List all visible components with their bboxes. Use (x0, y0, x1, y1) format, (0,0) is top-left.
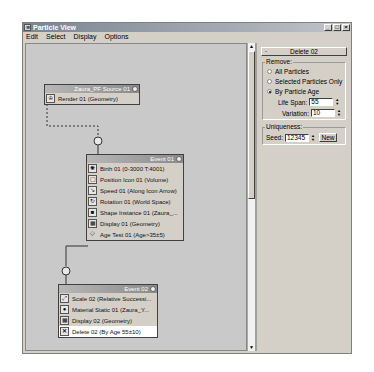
material-icon: ● (60, 305, 69, 314)
event-01-header[interactable]: Event 01 (87, 155, 183, 163)
life-span-label: Life Span: (278, 99, 307, 106)
birth-icon: ✺ (88, 164, 97, 173)
rollout-header-delete-02[interactable]: - Delete 02 (261, 47, 347, 56)
menu-edit[interactable]: Edit (26, 32, 38, 42)
life-span-spinner-icon[interactable]: ▲▼ (335, 98, 339, 106)
operator-scale[interactable]: ⤢ Scale 02 (Relative Successi... (59, 293, 157, 304)
scroll-down-icon[interactable]: ▼ (249, 345, 254, 350)
particle-graph-canvas[interactable]: Zaura_PF Source 01 ♔ Render 01 (Geometry… (25, 43, 247, 351)
scrollbar-thumb[interactable] (248, 51, 255, 199)
uniqueness-group: Uniqueness: Seed: 12345 ▲▼ New (262, 127, 346, 145)
age-test-icon: ◇ (88, 230, 97, 239)
source-node-header[interactable]: Zaura_PF Source 01 (45, 85, 139, 93)
maximize-button[interactable]: □ (333, 24, 341, 31)
radio-dot-selected[interactable] (267, 89, 272, 94)
title-bar[interactable]: ≋ Particle View _ □ × (23, 23, 351, 32)
node-collapse-icon[interactable] (150, 286, 156, 292)
operator-age-test[interactable]: ◇ Age Test 01 (Age>35±5) (87, 229, 183, 240)
seed-row: Seed: 12345 ▲▼ New (266, 133, 337, 142)
radio-dot[interactable] (267, 69, 272, 74)
source-node[interactable]: Zaura_PF Source 01 ♔ Render 01 (Geometry… (44, 84, 140, 105)
menu-options[interactable]: Options (104, 32, 128, 42)
operator-rotation[interactable]: ↻ Rotation 01 (World Space) (87, 196, 183, 207)
close-button[interactable]: × (342, 24, 350, 31)
speed-icon: ↘ (88, 186, 97, 195)
operator-shape-instance[interactable]: ■ Shape Instance 01 (Zaura_... (87, 207, 183, 218)
event-01-title: Event 01 (150, 156, 174, 162)
uniqueness-label: Uniqueness: (265, 123, 303, 130)
shape-instance-icon: ■ (88, 208, 97, 217)
new-seed-button[interactable]: New (319, 133, 337, 142)
scroll-up-icon[interactable]: ▲ (249, 44, 254, 49)
radio-all-particles[interactable]: All Particles (267, 68, 309, 75)
event-02-header[interactable]: Event 02 (59, 285, 157, 293)
event-02-node[interactable]: Event 02 ⤢ Scale 02 (Relative Successi..… (58, 284, 158, 338)
properties-panel: - Delete 02 Remove: All Particles Select… (259, 45, 349, 351)
operator-delete[interactable]: ✕ Delete 02 (By Age 55±10) (59, 326, 157, 337)
operator-material-static[interactable]: ● Material Static 01 (Zaura_Y... (59, 304, 157, 315)
variation-row: Variation: 10 ▲▼ (282, 109, 341, 117)
rollout-title: Delete 02 (290, 48, 318, 55)
position-icon: ▢ (88, 175, 97, 184)
variation-input[interactable]: 10 (311, 109, 335, 117)
radio-by-particle-age[interactable]: By Particle Age (267, 88, 319, 95)
variation-spinner-icon[interactable]: ▲▼ (337, 109, 341, 117)
life-span-row: Life Span: 55 ▲▼ (278, 98, 339, 106)
seed-label: Seed: (266, 134, 283, 141)
canvas-vertical-scrollbar[interactable]: ▲ ▼ (247, 43, 255, 351)
operator-display[interactable]: ▦ Display 01 (Geometry) (87, 218, 183, 229)
seed-input[interactable]: 12345 (285, 134, 309, 142)
node-collapse-icon[interactable] (176, 156, 182, 162)
rollout-toggle[interactable]: - (265, 48, 267, 55)
remove-group: Remove: All Particles Selected Particles… (262, 62, 346, 120)
panel-divider[interactable] (255, 43, 257, 351)
radio-selected-particles-only[interactable]: Selected Particles Only (267, 78, 342, 85)
operator-render[interactable]: ♔ Render 01 (Geometry) (45, 93, 139, 104)
particle-view-window: ≋ Particle View _ □ × Edit Select Displa… (22, 22, 352, 354)
life-span-input[interactable]: 55 (309, 98, 333, 106)
radio-dot[interactable] (267, 79, 272, 84)
seed-spinner-icon[interactable]: ▲▼ (311, 134, 315, 142)
menu-bar: Edit Select Display Options (23, 32, 351, 42)
display-icon: ▦ (60, 316, 69, 325)
remove-label: Remove: (265, 58, 293, 65)
delete-icon: ✕ (60, 327, 69, 336)
scale-icon: ⤢ (60, 294, 69, 303)
operator-position-icon[interactable]: ▢ Position Icon 01 (Volume) (87, 174, 183, 185)
node-collapse-icon[interactable] (132, 86, 138, 92)
menu-display[interactable]: Display (74, 32, 97, 42)
particle-flow-icon: ≋ (24, 24, 31, 31)
variation-label: Variation: (282, 110, 309, 117)
operator-display-02[interactable]: ▦ Display 02 (Geometry) (59, 315, 157, 326)
render-icon: ♔ (46, 94, 55, 103)
rotation-icon: ↻ (88, 197, 97, 206)
display-icon: ▦ (88, 219, 97, 228)
operator-birth[interactable]: ✺ Birth 01 (0-3000 T:4001) (87, 163, 183, 174)
event-01-node[interactable]: Event 01 ✺ Birth 01 (0-3000 T:4001) ▢ Po… (86, 154, 184, 241)
event-02-title: Event 02 (124, 286, 148, 292)
source-node-title: Zaura_PF Source 01 (74, 86, 130, 92)
operator-speed[interactable]: ↘ Speed 01 (Along Icon Arrow) (87, 185, 183, 196)
menu-select[interactable]: Select (46, 32, 65, 42)
window-title: Particle View (33, 24, 76, 31)
minimize-button[interactable]: _ (324, 24, 332, 31)
